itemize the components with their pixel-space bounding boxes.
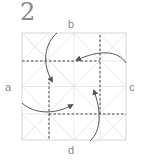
label-right: c — [129, 81, 135, 93]
label-left: a — [5, 81, 11, 93]
crease-lines — [22, 33, 126, 140]
label-top: b — [68, 18, 74, 30]
label-bottom: d — [68, 144, 74, 156]
